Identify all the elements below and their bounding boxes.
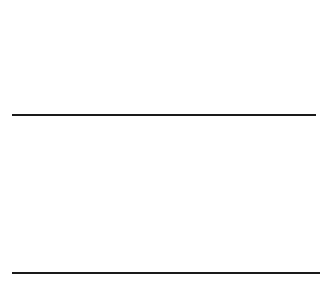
bottom-panel-z-distribution (0, 0, 320, 273)
normal-distribution-figure (0, 0, 326, 306)
distribution-plots (0, 0, 326, 306)
top-panel-x-distribution (0, 0, 316, 115)
